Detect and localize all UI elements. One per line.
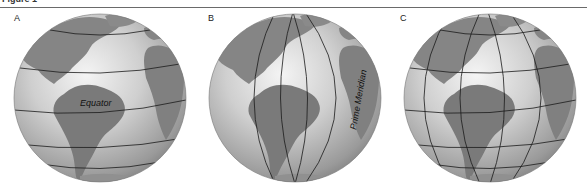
globe-c — [404, 12, 576, 184]
globes-diagram: Equator Prime Meridian — [0, 0, 587, 188]
equator-label: Equator — [80, 98, 113, 108]
globe-b: Prime Meridian — [209, 12, 381, 184]
globe-a: Equator — [14, 14, 186, 183]
